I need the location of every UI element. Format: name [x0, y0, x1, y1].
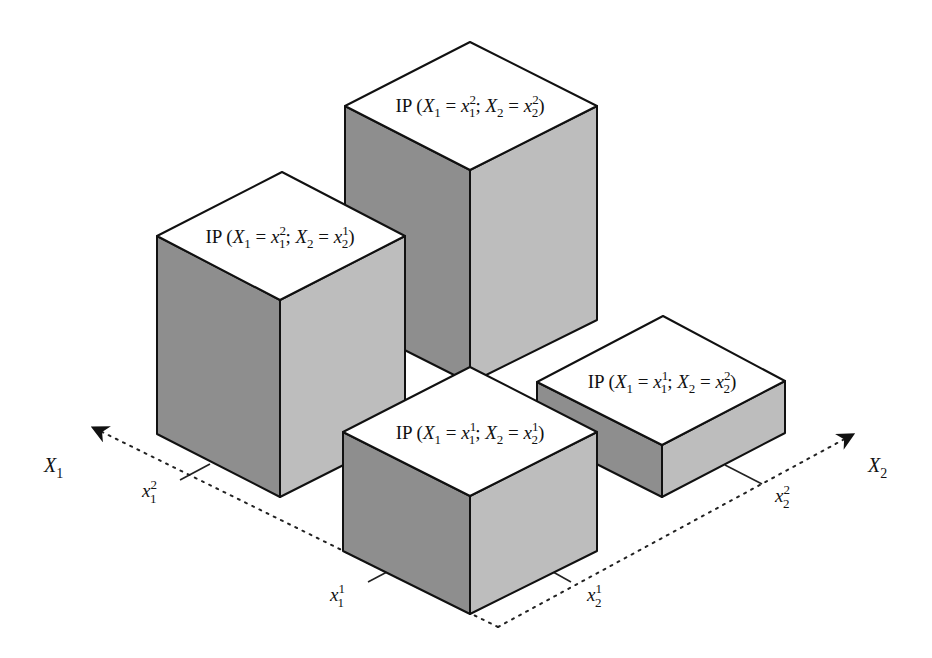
x1-axis-label: X1: [43, 454, 63, 481]
x1-tick-label-1: x11: [329, 581, 344, 610]
joint-probability-3d-bar-diagram: IP (X1 = x21; X2 = x22) IP (X1 = x11; X2…: [0, 0, 932, 658]
x2-tick-2: [725, 465, 762, 484]
bar-label: IP (X1 = x21; X2 = x12): [205, 223, 354, 251]
x2-tick-label-1: x12: [586, 581, 602, 610]
bar-label: IP (X1 = x11; X2 = x12): [396, 419, 545, 447]
x1-tick-label-2: x21: [141, 477, 157, 506]
x2-tick-label-2: x22: [774, 482, 790, 511]
x2-axis-label: X2: [867, 454, 887, 481]
bar-label: IP (X1 = x21; X2 = x22): [395, 92, 544, 120]
bar-label: IP (X1 = x11; X2 = x22): [588, 368, 737, 396]
